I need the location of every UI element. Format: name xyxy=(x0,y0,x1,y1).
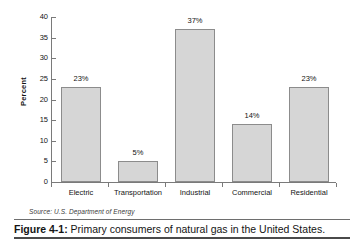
x-axis-tick-mark xyxy=(51,183,52,187)
bar-industrial[interactable] xyxy=(175,29,215,182)
bar-value-label-electric: 23% xyxy=(73,75,88,83)
x-axis-label-industrial: Industrial xyxy=(180,189,210,197)
figure-container: Percent 0 5 10 15 20 25 30 35 40 xyxy=(0,0,356,243)
x-axis-tick-mark xyxy=(336,183,337,187)
bar-value-label-commercial: 14% xyxy=(244,112,259,120)
figure-caption-number: Figure 4-1: xyxy=(14,223,68,235)
bar-residential[interactable] xyxy=(289,87,329,182)
bar-value-label-industrial: 37% xyxy=(187,17,202,25)
figure-caption-text: Primary consumers of natural gas in the … xyxy=(68,223,325,235)
x-axis-label-transportation: Transportation xyxy=(114,189,162,197)
x-axis-line xyxy=(51,182,336,183)
caption-divider-top xyxy=(14,219,350,220)
figure-caption: Figure 4-1: Primary consumers of natural… xyxy=(14,222,350,237)
x-axis-tick-mark xyxy=(222,183,223,187)
bars-layer: 23% 5% 37% 14% 23% xyxy=(0,0,356,205)
source-note: Source: U.S. Department of Energy xyxy=(29,208,135,215)
x-axis-label-commercial: Commercial xyxy=(232,189,272,197)
x-axis-tick-mark xyxy=(108,183,109,187)
bar-value-label-transportation: 5% xyxy=(133,149,144,157)
bar-transportation[interactable] xyxy=(118,161,158,182)
bar-commercial[interactable] xyxy=(232,124,272,182)
bar-electric[interactable] xyxy=(61,87,101,182)
x-axis-label-electric: Electric xyxy=(69,189,94,197)
x-axis-label-residential: Residential xyxy=(290,189,327,197)
chart-plot-region: Percent 0 5 10 15 20 25 30 35 40 xyxy=(0,0,356,205)
x-axis-tick-mark xyxy=(165,183,166,187)
x-axis-tick-mark xyxy=(279,183,280,187)
bar-value-label-residential: 23% xyxy=(301,75,316,83)
caption-divider-bottom xyxy=(14,237,350,239)
